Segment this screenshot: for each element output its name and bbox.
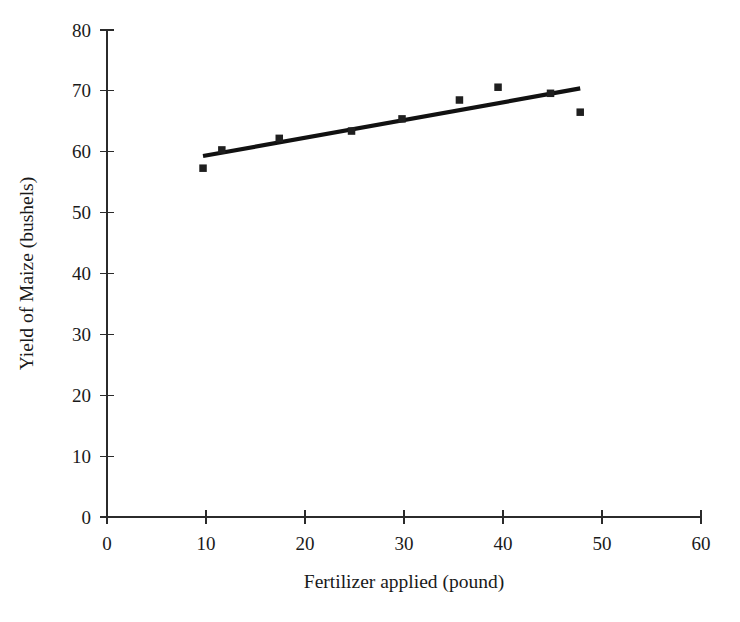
y-tick-label: 40 — [72, 263, 91, 284]
y-tick-label: 70 — [72, 80, 91, 101]
data-point-marker — [218, 146, 226, 154]
y-axis-title: Yield of Maize (bushels) — [16, 177, 38, 370]
y-tick-label: 20 — [72, 385, 91, 406]
y-tick-label: 50 — [72, 202, 91, 223]
x-axis-title: Fertilizer applied (pound) — [304, 571, 504, 593]
scatter-chart: 01020304050607080 0102030405060 Fertiliz… — [0, 0, 740, 622]
y-tick-label: 60 — [72, 141, 91, 162]
x-tick-label: 60 — [692, 533, 711, 554]
x-tick-label: 40 — [494, 533, 513, 554]
y-tick-label: 0 — [82, 507, 92, 528]
data-point-marker — [456, 96, 464, 104]
y-tick-label: 80 — [72, 20, 91, 41]
x-tick-label: 30 — [395, 533, 414, 554]
x-tick-label: 20 — [296, 533, 315, 554]
y-tick-label: 30 — [72, 324, 91, 345]
plot-area: 01020304050607080 0102030405060 Fertiliz… — [0, 0, 740, 622]
data-point-marker — [276, 135, 284, 143]
data-point-marker — [348, 127, 356, 134]
y-tick-label: 10 — [72, 446, 91, 467]
x-tick-label: 10 — [197, 533, 216, 554]
data-point-marker — [398, 115, 406, 123]
trend-line-group — [203, 88, 580, 156]
data-point-marker — [494, 83, 502, 91]
data-point-marker — [576, 108, 584, 116]
x-tick-label: 50 — [593, 533, 612, 554]
data-point-marker — [547, 90, 555, 98]
x-tick-label: 0 — [102, 533, 112, 554]
y-axis-ticks: 01020304050607080 — [72, 20, 114, 528]
trend-line — [203, 88, 580, 156]
data-point-marker — [199, 164, 207, 172]
